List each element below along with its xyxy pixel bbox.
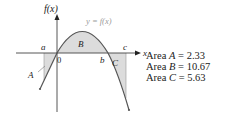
area-b-value: 10.67	[187, 61, 211, 72]
region-a-label: A	[27, 70, 34, 80]
legend-item-c: Area C = 5.63	[146, 72, 210, 83]
y-axis-arrow-icon	[55, 14, 60, 20]
legend-item-b: Area B = 10.67	[146, 61, 210, 72]
legend-item-a: Area A = 2.33	[146, 50, 210, 61]
point-c-label: c	[123, 42, 127, 52]
area-a-value: 2.33	[187, 50, 205, 61]
x-axis-arrow-icon	[135, 51, 141, 56]
region-b-label: B	[78, 39, 84, 49]
area-c-value: 5.63	[187, 72, 205, 83]
y-axis-label: f(x)	[44, 3, 59, 15]
area-legend: Area A = 2.33 Area B = 10.67 Area C = 5.…	[146, 50, 210, 83]
curve-left-endpoint	[39, 88, 41, 90]
point-a-label: a	[41, 42, 46, 52]
point-b-label: b	[100, 55, 105, 65]
curve-label: y = f(x)	[85, 16, 112, 26]
region-c-label: C	[112, 58, 119, 68]
origin-label: 0	[57, 55, 61, 65]
curve-right-endpoint	[128, 109, 130, 111]
